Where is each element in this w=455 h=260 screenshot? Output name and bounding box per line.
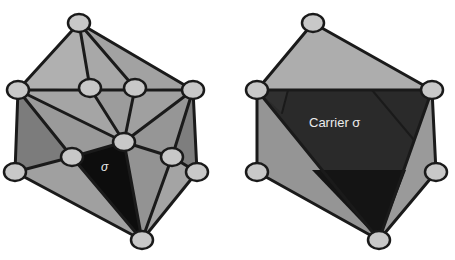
sigma-label: σ xyxy=(101,160,109,174)
vertex xyxy=(368,231,390,249)
right-figure: Carrier σ xyxy=(246,14,447,249)
vertex xyxy=(246,81,268,99)
vertex xyxy=(79,79,101,97)
vertex xyxy=(186,163,208,181)
left-figure: σ xyxy=(4,14,208,249)
diagram-canvas: σ xyxy=(0,0,455,260)
vertex xyxy=(124,79,146,97)
vertex xyxy=(113,133,135,151)
carrier-label: Carrier σ xyxy=(309,115,360,130)
vertex xyxy=(161,148,183,166)
vertex xyxy=(61,148,83,166)
vertex xyxy=(421,81,443,99)
vertex xyxy=(131,231,153,249)
vertex xyxy=(425,163,447,181)
vertex xyxy=(182,81,204,99)
vertex xyxy=(302,14,324,32)
vertex xyxy=(7,81,29,99)
vertex xyxy=(246,163,268,181)
vertex xyxy=(4,163,26,181)
vertex xyxy=(68,14,90,32)
